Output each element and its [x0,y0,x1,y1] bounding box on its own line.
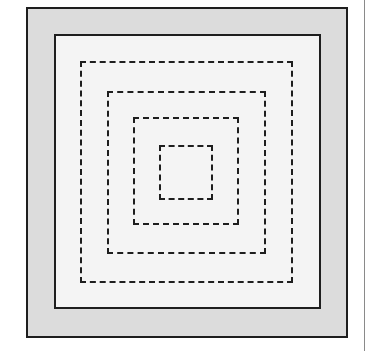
dashed-square-4 [159,145,213,200]
right-edge-line [364,0,365,351]
